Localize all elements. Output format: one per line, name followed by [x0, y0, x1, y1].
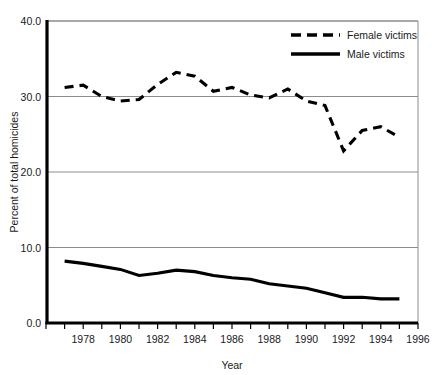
y-tick-label: 0.0 — [26, 317, 41, 329]
chart-container: 1978198019821984198619881990199219941996… — [0, 0, 435, 375]
x-axis-tick-labels: 1978198019821984198619881990199219941996 — [72, 333, 430, 345]
x-tick-label: 1994 — [369, 333, 393, 345]
x-axis-ticks — [46, 323, 418, 329]
y-tick-label: 30.0 — [21, 91, 42, 103]
x-axis-title: Year — [221, 359, 243, 371]
x-tick-label: 1990 — [295, 333, 319, 345]
y-tick-label: 40.0 — [21, 15, 42, 27]
x-tick-label: 1996 — [406, 333, 430, 345]
x-tick-label: 1988 — [258, 333, 282, 345]
legend-label-female-victims: Female victims — [347, 29, 417, 41]
x-tick-label: 1984 — [183, 333, 207, 345]
x-tick-label: 1982 — [146, 333, 170, 345]
y-tick-label: 10.0 — [21, 242, 42, 254]
x-tick-label: 1980 — [109, 333, 133, 345]
x-tick-label: 1986 — [220, 333, 244, 345]
y-tick-label: 20.0 — [21, 166, 42, 178]
y-axis-title: Percent of total homicides — [8, 112, 20, 233]
x-tick-label: 1992 — [332, 333, 356, 345]
y-axis-tick-labels: 0.010.020.030.040.0 — [21, 15, 42, 329]
homicide-percent-line-chart: 1978198019821984198619881990199219941996… — [0, 0, 435, 375]
x-tick-label: 1978 — [72, 333, 96, 345]
legend-label-male-victims: Male victims — [347, 48, 405, 60]
